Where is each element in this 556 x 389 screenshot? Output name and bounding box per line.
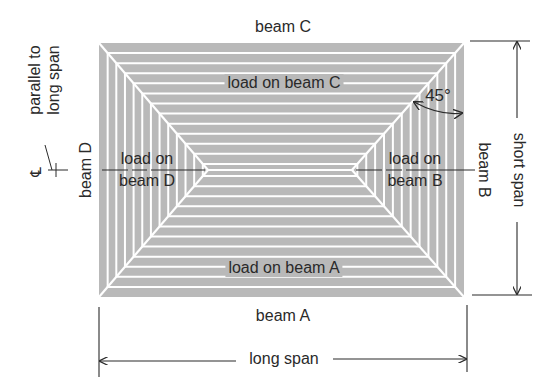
angle-label: 45° xyxy=(425,87,451,105)
beam-d-label: beam D xyxy=(77,142,95,198)
load-on-beam-d-label: load on beam D xyxy=(107,148,187,192)
load-on-beam-b-line1: load on xyxy=(375,148,455,170)
load-on-beam-a-label: load on beam A xyxy=(225,259,342,277)
load-on-beam-d-line1: load on xyxy=(107,148,187,170)
load-on-beam-b-label: load on beam B xyxy=(375,148,455,192)
short-span-label: short span xyxy=(510,129,528,212)
centerline-leader xyxy=(45,145,52,170)
centerline-note: parallel to long span xyxy=(25,45,63,114)
load-on-beam-d-line2: beam D xyxy=(107,170,187,192)
centerline-note-line2: long span xyxy=(44,45,63,114)
long-span-label: long span xyxy=(245,350,322,368)
beam-c-label: beam C xyxy=(255,18,311,36)
centerline-note-line1: parallel to xyxy=(25,45,44,114)
load-on-beam-c-label: load on beam C xyxy=(225,74,344,92)
beam-a-label: beam A xyxy=(256,307,310,325)
beam-b-label: beam B xyxy=(475,142,493,197)
load-on-beam-b-line2: beam B xyxy=(375,170,455,192)
centerline-symbol: ℄ xyxy=(27,167,45,177)
